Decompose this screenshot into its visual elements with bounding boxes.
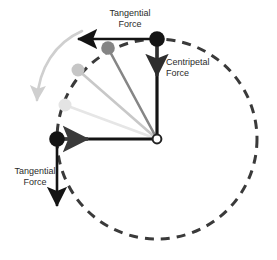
body-trail-3 [59, 99, 72, 112]
radius-trail-2 [78, 70, 157, 139]
body-trail-1 [101, 41, 115, 55]
radius-trail-3 [65, 105, 157, 139]
diagram-canvas: Tangential Force Centripetal Force Tange… [0, 0, 277, 260]
centripetal-force-label: Centripetal Force [166, 57, 232, 78]
tangential-force-label-bottom: Tangential Force [4, 166, 66, 187]
center-marker-icon [153, 135, 162, 144]
physics-diagram [0, 0, 277, 260]
body-top [149, 31, 165, 47]
tangential-force-label-top: Tangential Force [86, 8, 174, 29]
radius-trail-1 [108, 48, 157, 139]
body-trail-2 [72, 64, 85, 77]
body-left [49, 131, 65, 147]
